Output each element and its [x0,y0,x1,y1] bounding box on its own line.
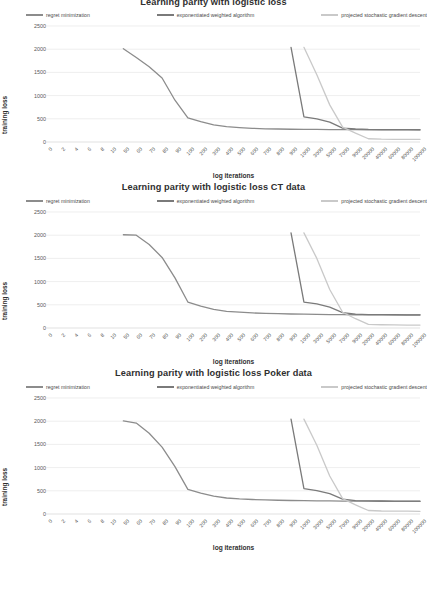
x-tick-label: 50 [122,518,130,526]
x-tick-label: 8 [99,146,105,152]
x-tick-label: 50 [122,332,130,340]
x-tick-label: 60000 [387,332,401,346]
chart-block-3: Learning parity with logistic loss Poker… [0,368,427,554]
x-tick-label: 5000 [325,146,337,158]
series-line [304,233,420,325]
x-tick-label: 60000 [387,146,401,160]
legend-swatch-icon [26,386,43,387]
x-tick-label: 800 [275,518,285,528]
series-line [304,419,420,511]
x-tick-label: 6 [86,518,92,524]
x-axis-ticks: 0246810506070809010020030040050060070080… [0,332,427,362]
x-tick-label: 200 [198,146,208,156]
legend-item[interactable]: exponentiated weighted algorithm [157,12,322,18]
x-tick-label: 50 [122,146,130,154]
x-tick-label: 1000 [299,518,311,530]
x-tick-label: 1000 [299,146,311,158]
legend-label: projected stochastic gradient descent [341,12,427,18]
plot-area: training loss050010001500200025000246810… [0,394,427,542]
x-tick-label: 90 [174,146,182,154]
x-tick-label: 600 [249,332,259,342]
x-tick-label: 400 [223,518,233,528]
chart-title: Learning parity with logistic loss Poker… [0,368,427,380]
x-tick-label: 7000 [337,332,349,344]
x-tick-label: 500 [236,332,246,342]
legend-swatch-icon [26,200,43,201]
chart-legend: regret minimizationexponentiated weighte… [0,380,427,394]
charts-container: Learning parity with logistic lossregret… [0,0,427,554]
x-tick-label: 500 [236,146,246,156]
x-tick-label: 800 [275,146,285,156]
legend-label: projected stochastic gradient descent [341,198,427,204]
legend-item[interactable]: regret minimization [26,12,157,18]
plot-area: training loss050010001500200025000246810… [0,22,427,170]
x-tick-label: 40000 [374,518,388,532]
figure-page: Learning parity with logistic lossregret… [0,0,427,607]
x-tick-label: 80 [161,332,169,340]
x-tick-label: 3000 [312,146,324,158]
x-tick-label: 4 [73,146,79,152]
x-tick-label: 300 [211,146,221,156]
x-tick-label: 90 [174,332,182,340]
x-tick-label: 20000 [361,518,375,532]
legend-swatch-icon [157,14,174,15]
x-tick-label: 400 [223,146,233,156]
x-tick-label: 90 [174,518,182,526]
x-tick-label: 3000 [312,332,324,344]
x-tick-label: 300 [211,518,221,528]
legend-label: projected stochastic gradient descent [341,384,427,390]
chart-legend: regret minimizationexponentiated weighte… [0,194,427,208]
x-tick-label: 3000 [312,518,324,530]
legend-swatch-icon [157,386,174,387]
x-tick-label: 100 [185,332,195,342]
x-tick-label: 7000 [337,146,349,158]
legend-label: regret minimization [46,384,90,390]
legend-swatch-icon [157,200,174,201]
x-tick-label: 70 [148,146,156,154]
x-tick-label: 400 [223,332,233,342]
legend-label: regret minimization [46,12,90,18]
x-tick-label: 100 [185,518,195,528]
legend-item[interactable]: regret minimization [26,198,157,204]
x-tick-label: 10 [109,332,117,340]
legend-item[interactable]: exponentiated weighted algorithm [157,198,322,204]
x-tick-label: 100 [185,146,195,156]
chart-title: Learning parity with logistic loss [0,0,427,8]
x-tick-label: 7000 [337,518,349,530]
x-axis-ticks: 0246810506070809010020030040050060070080… [0,518,427,548]
chart-block-1: Learning parity with logistic lossregret… [0,0,427,182]
legend-label: exponentiated weighted algorithm [177,198,255,204]
x-tick-label: 70 [148,332,156,340]
x-tick-label: 0 [47,332,53,338]
x-tick-label: 60 [135,332,143,340]
x-tick-label: 80 [161,146,169,154]
legend-item[interactable]: projected stochastic gradient descent [321,384,427,390]
x-tick-label: 40000 [374,146,388,160]
x-tick-label: 80 [161,518,169,526]
legend-swatch-icon [26,14,43,15]
x-tick-label: 600 [249,146,259,156]
series-line [304,47,420,139]
x-tick-label: 8 [99,518,105,524]
series-line [123,235,420,315]
legend-item[interactable]: exponentiated weighted algorithm [157,384,322,390]
x-tick-label: 60 [135,518,143,526]
x-tick-label: 4 [73,518,79,524]
legend-item[interactable]: regret minimization [26,384,157,390]
x-tick-label: 2 [60,332,66,338]
x-tick-label: 900 [288,518,298,528]
x-tick-label: 1000 [299,332,311,344]
x-tick-label: 900 [288,146,298,156]
x-tick-label: 2 [60,518,66,524]
x-tick-label: 70 [148,518,156,526]
x-tick-label: 20000 [361,332,375,346]
x-axis-ticks: 0246810506070809010020030040050060070080… [0,146,427,176]
legend-swatch-icon [321,200,338,201]
x-tick-label: 700 [262,332,272,342]
x-tick-label: 900 [288,332,298,342]
x-tick-label: 700 [262,146,272,156]
x-tick-label: 5000 [325,332,337,344]
legend-item[interactable]: projected stochastic gradient descent [321,12,427,18]
legend-item[interactable]: projected stochastic gradient descent [321,198,427,204]
x-tick-label: 4 [73,332,79,338]
